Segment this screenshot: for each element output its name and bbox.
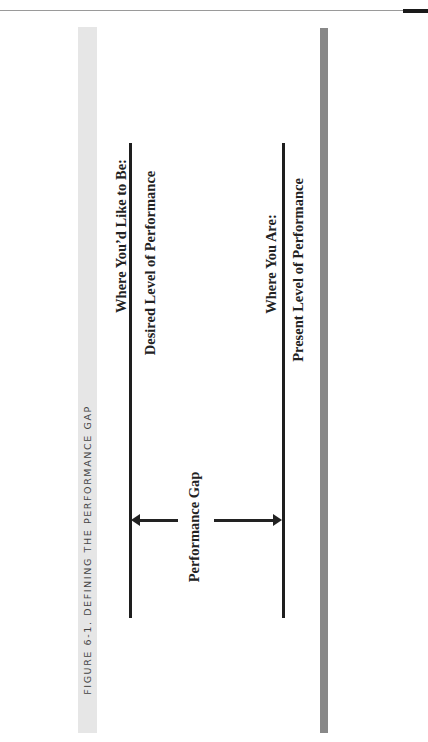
right-arrow-head-icon <box>273 514 282 526</box>
page-top-rule <box>0 10 404 11</box>
figure-side-band <box>320 28 328 733</box>
figure-caption: FIGURE 6-1. DEFINING THE PERFORMANCE GAP <box>82 405 93 695</box>
present-heading: Where You Are: <box>263 214 280 314</box>
page-corner-tab <box>403 9 428 13</box>
desired-heading: Where You’d Like to Be: <box>113 159 130 313</box>
present-level-line <box>282 143 285 618</box>
desired-subheading: Desired Level of Performance <box>142 171 159 356</box>
left-arrow-head-icon <box>131 514 140 526</box>
present-subheading: Present Level of Performance <box>290 178 307 362</box>
performance-gap-label: Performance Gap <box>186 472 203 583</box>
right-arrow-shaft <box>214 519 274 522</box>
left-arrow-shaft <box>138 519 178 522</box>
